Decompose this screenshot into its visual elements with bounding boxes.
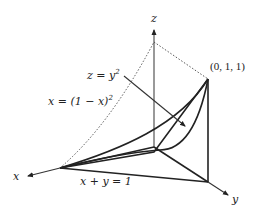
x-axis-label: x (13, 170, 20, 183)
inner-curve (60, 79, 208, 168)
y-axis (208, 182, 228, 195)
z-axis-label: z (150, 12, 157, 25)
x-axis (28, 168, 60, 176)
dotted-top-edge (154, 42, 208, 79)
curve-z-label: z = y2 (86, 68, 120, 82)
point-label: (0, 1, 1) (210, 60, 245, 73)
y-axis-label: y (231, 193, 239, 206)
base-y-edge (154, 147, 208, 182)
line-label: x + y = 1 (80, 175, 132, 188)
region-diagram: z x y z = y2 x = (1 − x)2 x + y = 1 (0, … (0, 0, 256, 209)
curve-x-label: x = (1 − x)2 (48, 94, 113, 108)
diagram-canvas: z x y z = y2 x = (1 − x)2 x + y = 1 (0, … (0, 0, 256, 209)
